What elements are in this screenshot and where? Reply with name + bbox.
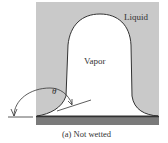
liquid-label: Liquid xyxy=(124,12,148,22)
angle-label: θ xyxy=(52,86,57,96)
solid-surface xyxy=(36,116,159,125)
vapor-label: Vapor xyxy=(84,56,106,66)
contact-angle-diagram: Liquid Vapor θ (a) Not wetted xyxy=(0,0,168,143)
figure-caption: (a) Not wetted xyxy=(62,129,112,139)
